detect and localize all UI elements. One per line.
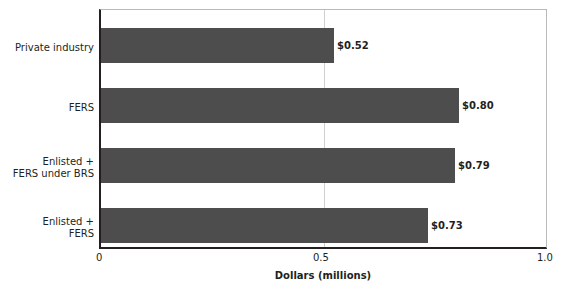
bar-enlisted-fers <box>101 208 428 243</box>
xtick-label-0: 0 <box>96 253 102 263</box>
xtick-label-0-5: 0.5 <box>313 253 329 263</box>
chart-figure: Private industry FERS Enlisted + FERS un… <box>0 0 566 293</box>
category-axis-labels: Private industry FERS Enlisted + FERS un… <box>0 9 94 249</box>
bar-enlisted-fers-brs <box>101 148 455 183</box>
bar-private-industry <box>101 28 334 63</box>
category-label-private-industry: Private industry <box>2 42 94 54</box>
category-label-enlisted-fers-brs: Enlisted + FERS under BRS <box>2 156 94 180</box>
category-label-fers: FERS <box>2 102 94 114</box>
plot-area <box>99 9 547 249</box>
xtick-label-1-0: 1.0 <box>537 253 553 263</box>
value-label-private-industry: $0.52 <box>337 41 369 51</box>
value-label-enlisted-fers: $0.73 <box>431 221 463 231</box>
footnote-cutoff <box>8 288 428 293</box>
bar-fers <box>101 88 459 123</box>
category-label-enlisted-fers: Enlisted + FERS <box>2 216 94 240</box>
value-label-fers: $0.80 <box>462 101 494 111</box>
x-axis-title: Dollars (millions) <box>99 271 547 281</box>
value-label-enlisted-fers-brs: $0.79 <box>458 161 490 171</box>
